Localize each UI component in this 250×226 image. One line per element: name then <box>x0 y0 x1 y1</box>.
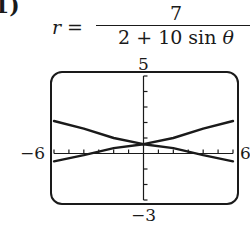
axes <box>54 76 233 200</box>
graph-plot <box>0 0 250 226</box>
